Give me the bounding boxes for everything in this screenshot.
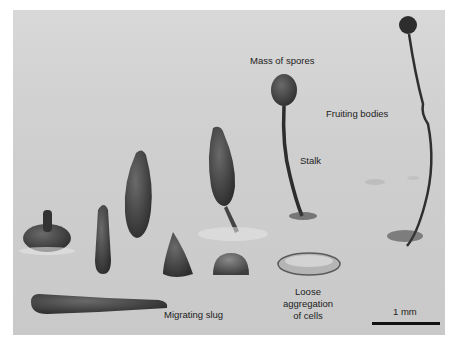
label-loose-aggregation-line2: aggregation bbox=[268, 298, 348, 310]
scale-bar bbox=[372, 322, 440, 325]
label-loose-aggregation-line3: of cells bbox=[268, 310, 348, 322]
label-loose-aggregation-line1: Loose bbox=[268, 286, 348, 298]
label-fruiting-bodies: Fruiting bodies bbox=[326, 108, 388, 120]
label-mass-of-spores: Mass of spores bbox=[250, 55, 314, 67]
scale-label: 1 mm bbox=[393, 306, 417, 318]
slime-mold-structures bbox=[13, 10, 445, 335]
sem-micrograph bbox=[13, 10, 445, 335]
label-loose-aggregation: Loose aggregation of cells bbox=[268, 286, 348, 322]
label-stalk: Stalk bbox=[300, 155, 321, 167]
label-migrating-slug: Migrating slug bbox=[164, 309, 223, 321]
